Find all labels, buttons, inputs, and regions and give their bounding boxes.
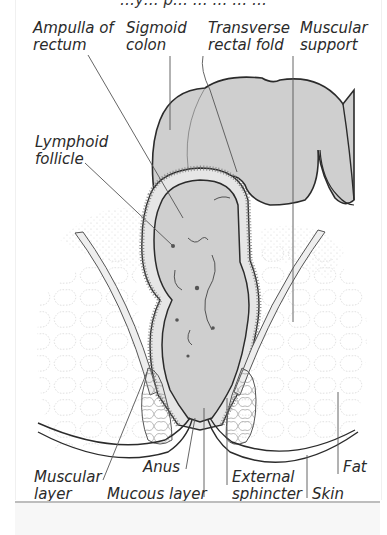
label-external-sphincter: External sphincter <box>232 469 302 503</box>
label-lymphoid-follicle: Lymphoid follicle <box>35 134 108 168</box>
label-muscular-layer: Muscular layer <box>34 469 102 503</box>
rectum-anatomy-illustration <box>0 0 387 500</box>
label-transverse-rectal-fold: Transverse rectal fold <box>208 20 290 54</box>
label-muscular-support: Muscular support <box>300 20 368 54</box>
label-sigmoid-colon: Sigmoid colon <box>126 20 187 54</box>
page-bottom-strip <box>15 503 380 535</box>
label-ampulla-of-rectum: Ampulla of rectum <box>33 20 114 54</box>
label-fat: Fat <box>343 459 367 476</box>
label-anus: Anus <box>143 459 180 476</box>
